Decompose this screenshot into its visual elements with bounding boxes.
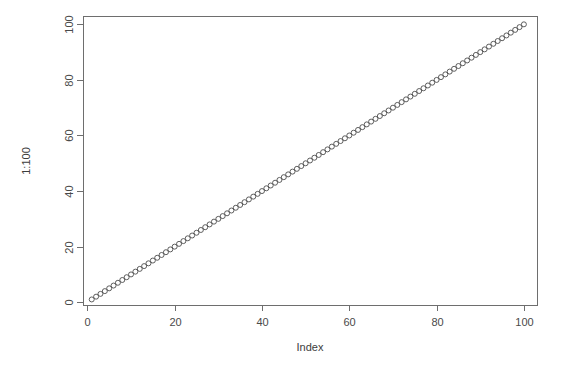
x-tick-label: 40 xyxy=(256,316,268,328)
y-tick-label: 80 xyxy=(63,74,75,86)
y-tick-label: 100 xyxy=(63,15,75,33)
y-tick-label: 0 xyxy=(63,299,75,305)
x-tick-label: 60 xyxy=(343,316,355,328)
x-axis-title: Index xyxy=(297,341,324,353)
y-tick-label: 40 xyxy=(63,185,75,197)
y-tick-label: 20 xyxy=(63,241,75,253)
x-tick-label: 0 xyxy=(84,316,90,328)
x-tick-label: 20 xyxy=(169,316,181,328)
x-tick-label: 100 xyxy=(515,316,533,328)
x-tick-label: 80 xyxy=(431,316,443,328)
y-tick-label: 60 xyxy=(63,129,75,141)
y-axis-title: 1:100 xyxy=(20,147,32,175)
scatter-plot-canvas: 020406080100 020406080100 Index 1:100 xyxy=(0,0,564,374)
r-plot-device: 020406080100 020406080100 Index 1:100 xyxy=(0,0,564,374)
